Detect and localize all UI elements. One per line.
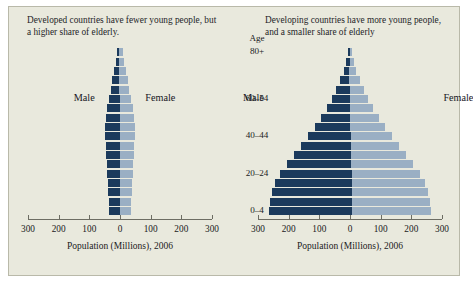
pyramid-band xyxy=(9,58,231,66)
x-axis-tick-label: 200 xyxy=(52,224,66,234)
bar-female xyxy=(351,151,406,159)
bar-male xyxy=(270,198,352,206)
x-axis-tick xyxy=(59,215,60,219)
pyramid-plot-developed xyxy=(9,47,231,215)
bar-male xyxy=(107,104,119,112)
bar-female xyxy=(352,179,425,187)
bar-female xyxy=(119,48,123,56)
bar-male xyxy=(105,123,120,131)
x-axis-tick xyxy=(181,215,182,219)
bar-female xyxy=(120,95,131,103)
x-axis-tick xyxy=(28,215,29,219)
x-axis-tick xyxy=(350,215,351,219)
bar-male xyxy=(109,95,119,103)
pyramid-band xyxy=(9,67,231,75)
bar-male xyxy=(112,76,119,84)
bar-male xyxy=(332,95,350,103)
bar-female xyxy=(120,179,132,187)
x-axis-tick-label: 100 xyxy=(312,224,326,234)
bar-female xyxy=(350,86,364,94)
x-axis-tick-label: 0 xyxy=(348,224,353,234)
x-axis-line xyxy=(258,219,442,220)
pyramid-band xyxy=(9,132,231,140)
x-axis-tick-label: 100 xyxy=(374,224,388,234)
bar-male xyxy=(111,86,119,94)
bar-female xyxy=(352,170,420,178)
bar-male xyxy=(340,76,349,84)
bar-male xyxy=(315,123,350,131)
pyramid-band xyxy=(239,86,461,94)
pyramid-band xyxy=(239,76,461,84)
chart-caption-developed: Developed countries have fewer young peo… xyxy=(27,14,217,39)
bar-female xyxy=(351,142,399,150)
pyramid-band xyxy=(9,86,231,94)
pyramid-band xyxy=(9,114,231,122)
pyramid-band xyxy=(9,160,231,168)
bar-female xyxy=(350,95,368,103)
chart-caption-developing: Developing countries have more young peo… xyxy=(265,14,455,39)
pyramid-band xyxy=(9,76,231,84)
pyramid-band xyxy=(239,207,461,215)
bar-male xyxy=(294,151,351,159)
x-axis-tick xyxy=(151,215,152,219)
bar-female xyxy=(350,104,373,112)
population-pyramid-developing: Developing countries have more young peo… xyxy=(239,7,461,277)
pyramid-band xyxy=(239,188,461,196)
bar-male xyxy=(301,142,351,150)
bar-female xyxy=(350,48,352,56)
bar-male xyxy=(275,179,352,187)
bar-male xyxy=(109,207,120,215)
bar-female xyxy=(350,123,384,131)
bar-female xyxy=(350,114,379,122)
x-axis-tick-label: 300 xyxy=(435,224,449,234)
x-axis-developing: Population (Millions), 2006 300200100010… xyxy=(239,219,461,220)
bar-female xyxy=(350,58,354,66)
x-axis-tick xyxy=(319,215,320,219)
x-axis-tick-label: 300 xyxy=(205,224,219,234)
pyramid-band xyxy=(239,179,461,187)
pyramid-band xyxy=(9,188,231,196)
population-pyramid-developed: Developed countries have fewer young peo… xyxy=(9,7,231,277)
pyramid-band xyxy=(9,179,231,187)
bar-male xyxy=(106,142,120,150)
bar-male xyxy=(272,188,352,196)
bar-female xyxy=(351,132,392,140)
bar-female xyxy=(119,86,129,94)
pyramid-band xyxy=(9,151,231,159)
x-axis-tick-label: 100 xyxy=(144,224,158,234)
bar-female xyxy=(120,142,134,150)
bar-female xyxy=(120,123,135,131)
pyramid-band xyxy=(239,67,461,75)
pyramid-band xyxy=(239,95,461,103)
x-axis-tick xyxy=(120,215,121,219)
bar-female xyxy=(120,151,133,159)
pyramid-band xyxy=(239,151,461,159)
bar-male xyxy=(327,104,350,112)
bar-female xyxy=(352,207,431,215)
bar-female xyxy=(352,198,430,206)
pyramid-band xyxy=(239,160,461,168)
x-axis-title: Population (Millions), 2006 xyxy=(239,241,461,251)
x-axis-tick xyxy=(89,215,90,219)
bar-female xyxy=(119,76,128,84)
bar-male xyxy=(106,114,120,122)
pyramid-band xyxy=(9,198,231,206)
bar-female xyxy=(120,114,134,122)
pyramid-band xyxy=(239,142,461,150)
pyramid-band xyxy=(239,123,461,131)
bar-female xyxy=(349,67,356,75)
x-axis-tick-label: 100 xyxy=(82,224,96,234)
x-axis-tick-label: 0 xyxy=(118,224,123,234)
bar-male xyxy=(105,132,120,140)
bar-female xyxy=(351,160,412,168)
pyramid-band xyxy=(239,104,461,112)
bar-female xyxy=(119,67,126,75)
bar-male xyxy=(321,114,350,122)
bar-male xyxy=(336,86,349,94)
pyramid-band xyxy=(239,58,461,66)
x-axis-tick xyxy=(411,215,412,219)
bar-female xyxy=(120,160,133,168)
bar-male xyxy=(106,151,120,159)
bar-female xyxy=(349,76,359,84)
bar-female xyxy=(119,58,124,66)
